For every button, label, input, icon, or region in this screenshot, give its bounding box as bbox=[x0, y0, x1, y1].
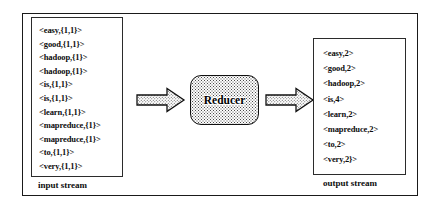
input-stream-entry-list: <easy,{1,1}> <good,{1,1}> <hadoop,{1}> <… bbox=[32, 18, 122, 174]
arrow-reducer-to-output-icon bbox=[265, 86, 315, 118]
list-item: <very,2}> bbox=[323, 152, 405, 167]
output-stream-box: <easy,2> <good,2> <hadoop,2> <is,4> <lea… bbox=[313, 38, 406, 175]
input-stream-box: <easy,{1,1}> <good,{1,1}> <hadoop,{1}> <… bbox=[31, 17, 123, 177]
list-item: <to,2> bbox=[323, 137, 405, 152]
list-item: <hadoop,{1}> bbox=[39, 51, 122, 65]
input-stream-caption: input stream bbox=[38, 180, 87, 190]
list-item: <learn,{1,1}> bbox=[39, 106, 122, 120]
list-item: <mapreduce,{1}> bbox=[39, 133, 122, 147]
list-item: <mapreduce,{1}> bbox=[39, 119, 122, 133]
output-stream-caption: output stream bbox=[323, 178, 377, 188]
list-item: <learn,2> bbox=[323, 107, 405, 122]
list-item: <is,4> bbox=[323, 92, 405, 107]
list-item: <good,{1,1}> bbox=[39, 38, 122, 52]
diagram-canvas: <easy,{1,1}> <good,{1,1}> <hadoop,{1}> <… bbox=[0, 0, 440, 214]
arrow-input-to-reducer-icon bbox=[136, 86, 186, 118]
list-item: <to,{1,1}> bbox=[39, 146, 122, 160]
list-item: <hadoop,2> bbox=[323, 76, 405, 91]
list-item: <easy,{1,1}> bbox=[39, 24, 122, 38]
list-item: <very,{1,1}> bbox=[39, 160, 122, 174]
output-stream-entry-list: <easy,2> <good,2> <hadoop,2> <is,4> <lea… bbox=[314, 39, 405, 168]
list-item: <good,2> bbox=[323, 61, 405, 76]
list-item: <is,{1,1}> bbox=[39, 92, 122, 106]
list-item: <mapreduce,2> bbox=[323, 122, 405, 137]
list-item: <hadoop,{1}> bbox=[39, 65, 122, 79]
list-item: <easy,2> bbox=[323, 46, 405, 61]
list-item: <is,{1,1}> bbox=[39, 78, 122, 92]
reducer-label: Reducer bbox=[204, 94, 246, 106]
reducer-node: Reducer bbox=[190, 75, 259, 125]
